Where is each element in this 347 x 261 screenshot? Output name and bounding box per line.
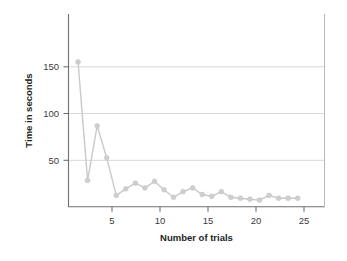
data-point — [200, 192, 205, 197]
data-point — [152, 179, 157, 184]
data-point — [276, 196, 281, 201]
data-point — [143, 186, 148, 191]
data-point — [219, 189, 224, 194]
data-point — [190, 186, 195, 191]
data-point — [114, 193, 119, 198]
x-tick-label-10: 10 — [155, 215, 166, 226]
data-point — [238, 196, 243, 201]
data-point — [257, 198, 262, 203]
data-point — [123, 186, 128, 191]
data-point — [171, 195, 176, 200]
chart-background — [0, 0, 347, 261]
data-point — [181, 189, 186, 194]
y-tick-label-100: 100 — [43, 108, 59, 119]
data-point — [85, 178, 90, 183]
data-point — [133, 181, 138, 186]
x-tick-label-5: 5 — [109, 215, 114, 226]
data-point — [248, 197, 253, 202]
data-point — [286, 196, 291, 201]
x-tick-label-20: 20 — [251, 215, 262, 226]
data-point — [228, 195, 233, 200]
data-point — [162, 187, 167, 192]
x-tick-label-15: 15 — [203, 215, 214, 226]
x-tick-label-25: 25 — [299, 215, 310, 226]
y-tick-label-50: 50 — [48, 155, 59, 166]
data-point — [209, 194, 214, 199]
chart-figure: 50 100 150 5 10 15 20 25 Number of trial… — [0, 0, 347, 261]
data-point — [104, 155, 109, 160]
data-point — [95, 123, 100, 128]
data-point — [267, 193, 272, 198]
data-point — [295, 196, 300, 201]
data-point — [76, 60, 81, 65]
x-axis-title: Number of trials — [160, 232, 233, 243]
y-tick-label-150: 150 — [43, 61, 59, 72]
y-axis-title: Time in seconds — [23, 73, 34, 147]
